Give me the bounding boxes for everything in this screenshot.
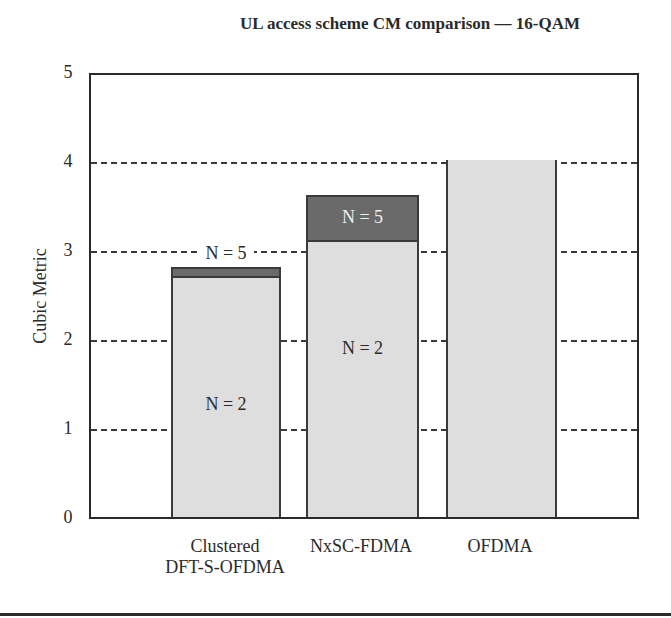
- bar-ofdma: [446, 160, 557, 517]
- segment-n2: N = 2: [173, 276, 279, 517]
- y-tick-5: 5: [58, 62, 78, 83]
- bar-nxsc-fdma: N = 2 N = 5: [306, 195, 419, 517]
- plot-area: N = 2 N = 5 N = 2 N = 5: [89, 73, 639, 519]
- segment-n2: N = 2: [308, 240, 417, 517]
- y-tick-1: 1: [58, 418, 78, 439]
- annotation-n5: N = 5: [198, 243, 254, 264]
- segment-label-n5: N = 5: [308, 207, 417, 228]
- y-tick-3: 3: [58, 240, 78, 261]
- segment-label-n2: N = 2: [308, 338, 417, 359]
- y-tick-2: 2: [58, 329, 78, 350]
- y-tick-4: 4: [58, 151, 78, 172]
- segment-n5: [173, 269, 279, 278]
- x-label-ofdma: OFDMA: [445, 536, 555, 557]
- chart-title: UL access scheme CM comparison — 16-QAM: [180, 14, 640, 34]
- x-label-clustered-dft-s-ofdma: Clustered DFT-S-OFDMA: [165, 536, 285, 578]
- segment-ofdma: [448, 160, 555, 517]
- x-label-nxsc-fdma: NxSC-FDMA: [300, 536, 422, 557]
- segment-label-n2: N = 2: [173, 394, 279, 415]
- bar-clustered-dft-s-ofdma: N = 2 N = 5: [171, 267, 281, 517]
- bottom-rule: [0, 613, 671, 616]
- y-axis-label: Cubic Metric: [30, 248, 51, 343]
- segment-n5: N = 5: [308, 197, 417, 242]
- y-tick-0: 0: [58, 507, 78, 528]
